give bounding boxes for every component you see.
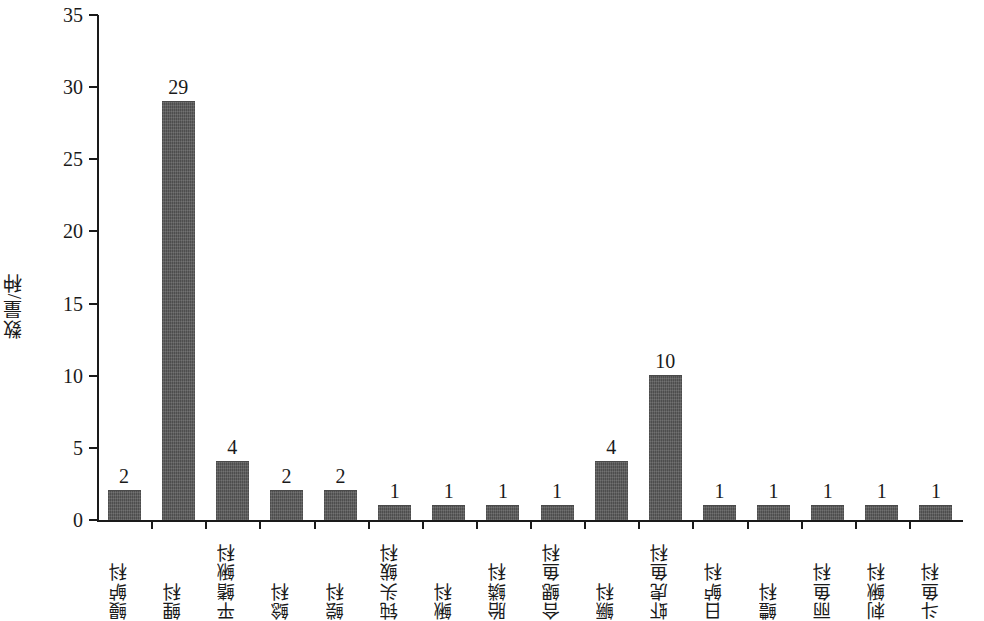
bar: 1 xyxy=(919,505,952,520)
y-tick-label: 5 xyxy=(73,438,83,458)
x-tick xyxy=(638,520,640,529)
x-axis-label: 日鲈科 xyxy=(706,532,732,620)
bar: 1 xyxy=(378,505,411,520)
x-axis-label: 刺鳅科 xyxy=(869,532,895,620)
bar: 2 xyxy=(108,490,141,520)
y-tick: 35 xyxy=(89,14,98,16)
y-tick-label: 10 xyxy=(63,366,83,386)
bar-value-label: 1 xyxy=(823,481,833,501)
bar: 10 xyxy=(649,375,682,520)
x-axis-label: 虾虎鱼科 xyxy=(652,532,678,620)
y-tick-label: 30 xyxy=(63,77,83,97)
bar-value-label: 10 xyxy=(655,351,675,371)
bar: 29 xyxy=(162,101,195,520)
x-tick xyxy=(855,520,857,529)
y-tick-label: 35 xyxy=(63,5,83,25)
plot-area: 05101520253035 229422111141011111 xyxy=(97,15,963,521)
bar-chart: 数量/种 05101520253035 229422111141011111 鳗… xyxy=(0,0,984,621)
x-axis-label: 鳅科 xyxy=(436,532,462,620)
bar-value-label: 2 xyxy=(281,466,291,486)
bar: 1 xyxy=(432,505,465,520)
y-tick: 10 xyxy=(89,375,98,377)
bar: 1 xyxy=(541,505,574,520)
y-tick-label: 0 xyxy=(73,510,83,530)
x-axis-label: 鲿科 xyxy=(328,532,354,620)
bar-value-label: 1 xyxy=(769,481,779,501)
y-tick-label: 25 xyxy=(63,149,83,169)
bar-value-label: 29 xyxy=(168,77,188,97)
bar-value-label: 1 xyxy=(877,481,887,501)
bar: 2 xyxy=(270,490,303,520)
x-axis-label: 斗鱼科 xyxy=(923,532,949,620)
x-axis-label: 鳜科 xyxy=(598,532,624,620)
x-axis-label: 鳗鲈科 xyxy=(111,532,137,620)
x-tick xyxy=(692,520,694,529)
x-tick xyxy=(530,520,532,529)
y-tick-label: 20 xyxy=(63,221,83,241)
y-axis-title: 数量/种 xyxy=(2,236,26,376)
y-tick: 25 xyxy=(89,158,98,160)
x-axis-label: 平鳍鳅科 xyxy=(219,532,245,620)
x-axis-label: 丽鱼科 xyxy=(815,532,841,620)
bar: 1 xyxy=(703,505,736,520)
bar-value-label: 1 xyxy=(444,481,454,501)
bar-value-label: 2 xyxy=(119,466,129,486)
y-tick-label: 15 xyxy=(63,294,83,314)
y-tick: 20 xyxy=(89,230,98,232)
bar-value-label: 1 xyxy=(552,481,562,501)
x-tick xyxy=(584,520,586,529)
x-axis-label: 鲤科 xyxy=(165,532,191,620)
y-tick: 0 xyxy=(89,519,98,521)
x-tick xyxy=(909,520,911,529)
x-tick xyxy=(368,520,370,529)
bar: 1 xyxy=(865,505,898,520)
x-tick xyxy=(801,520,803,529)
bar: 1 xyxy=(811,505,844,520)
y-tick: 30 xyxy=(89,86,98,88)
bar: 1 xyxy=(757,505,790,520)
y-tick: 15 xyxy=(89,303,98,305)
x-axis-label: 鲶科 xyxy=(273,532,299,620)
bar: 4 xyxy=(595,461,628,520)
bar-value-label: 1 xyxy=(498,481,508,501)
bar-value-label: 4 xyxy=(227,437,237,457)
bar: 1 xyxy=(486,505,519,520)
bar-value-label: 1 xyxy=(714,481,724,501)
bar-value-label: 2 xyxy=(336,466,346,486)
x-axis-label: 钝头鲅科 xyxy=(382,532,408,620)
y-tick: 5 xyxy=(89,447,98,449)
x-tick xyxy=(205,520,207,529)
x-tick xyxy=(747,520,749,529)
x-tick xyxy=(476,520,478,529)
x-tick xyxy=(422,520,424,529)
x-tick xyxy=(151,520,153,529)
x-axis-label: 鳢科 xyxy=(761,532,787,620)
bar: 4 xyxy=(216,461,249,520)
bar-value-label: 1 xyxy=(931,481,941,501)
bar: 2 xyxy=(324,490,357,520)
bar-value-label: 1 xyxy=(390,481,400,501)
x-tick xyxy=(314,520,316,529)
x-tick xyxy=(259,520,261,529)
bar-value-label: 4 xyxy=(606,437,616,457)
x-axis-label: 合鳃鱼科 xyxy=(544,532,570,620)
x-axis-label: 胎鳞科 xyxy=(490,532,516,620)
